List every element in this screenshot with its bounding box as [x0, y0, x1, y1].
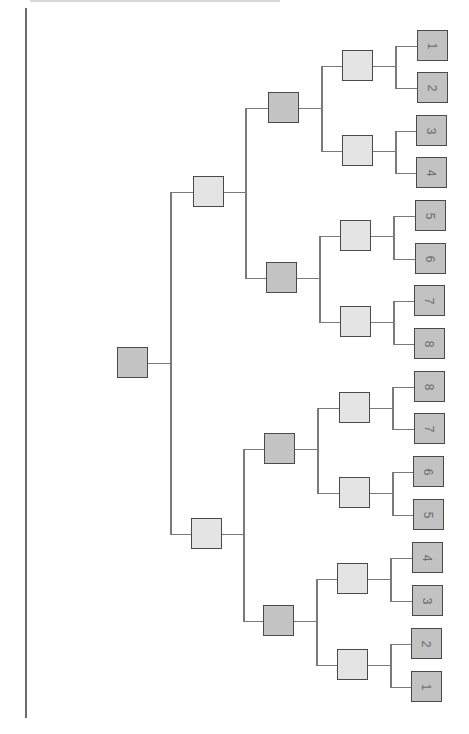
connector-line — [392, 472, 413, 474]
connector-line — [317, 408, 319, 493]
connector-line — [393, 259, 415, 261]
connector-line — [393, 301, 414, 303]
connector-line — [170, 192, 172, 534]
leaf-node: 4 — [412, 542, 443, 573]
connector-line — [170, 534, 191, 536]
leaf-node: 5 — [415, 200, 446, 231]
leaf-label: 4 — [421, 554, 435, 561]
leaf-label: 6 — [424, 255, 438, 262]
connector-line — [392, 472, 394, 515]
level2-node — [266, 262, 297, 293]
connector-line — [170, 192, 193, 194]
leaf-node: 2 — [411, 628, 442, 659]
level1-node — [193, 176, 224, 207]
connector-line — [390, 644, 392, 687]
connector-line — [295, 449, 317, 451]
leaf-node: 7 — [414, 285, 445, 316]
leaf-label: 8 — [423, 383, 437, 390]
connector-line — [321, 66, 323, 151]
connector-line — [245, 278, 266, 280]
connector-line — [393, 216, 395, 259]
level3-node — [340, 306, 371, 337]
level3-node — [340, 220, 371, 251]
connector-line — [224, 192, 245, 194]
leaf-node: 8 — [414, 371, 445, 402]
connector-line — [368, 579, 390, 581]
leaf-node: 1 — [411, 671, 442, 702]
connector-line — [371, 236, 393, 238]
connector-line — [393, 301, 395, 344]
connector-line — [243, 621, 263, 623]
connector-line — [371, 322, 393, 324]
connector-line — [395, 46, 397, 88]
leaf-label: 1 — [426, 42, 440, 49]
leaf-label: 2 — [426, 84, 440, 91]
connector-line — [321, 151, 342, 153]
leaf-node: 3 — [412, 585, 443, 616]
leaf-label: 3 — [421, 597, 435, 604]
leaf-label: 3 — [425, 127, 439, 134]
level3-node — [337, 563, 368, 594]
connector-line — [395, 131, 416, 133]
connector-line — [393, 344, 414, 346]
connector-line — [390, 558, 412, 560]
leaf-label: 6 — [422, 468, 436, 475]
level2-node — [268, 92, 299, 123]
connector-line — [393, 216, 415, 218]
level3-node — [342, 135, 373, 166]
connector-line — [316, 579, 337, 581]
connector-line — [392, 429, 414, 431]
level1-node — [191, 518, 222, 549]
connector-line — [245, 108, 268, 110]
connector-line — [368, 665, 390, 667]
level2-node — [264, 433, 295, 464]
leaf-node: 2 — [417, 72, 448, 103]
connector-line — [294, 621, 316, 623]
leaf-node: 7 — [414, 413, 445, 444]
level2-node — [263, 605, 294, 636]
connector-line — [317, 408, 339, 410]
leaf-label: 8 — [423, 340, 437, 347]
leaf-node: 1 — [417, 30, 448, 61]
connector-line — [316, 579, 318, 665]
connector-line — [390, 558, 392, 601]
page-margin-line — [25, 8, 27, 718]
connector-line — [390, 687, 411, 689]
connector-line — [243, 449, 264, 451]
connector-line — [297, 278, 319, 280]
connector-line — [373, 151, 395, 153]
connector-line — [392, 387, 394, 429]
connector-line — [319, 236, 321, 322]
root-node — [117, 347, 148, 378]
connector-line — [370, 408, 392, 410]
connector-line — [373, 66, 395, 68]
page-top-edge — [30, 0, 280, 2]
level3-node — [342, 50, 373, 81]
connector-line — [390, 644, 411, 646]
connector-line — [319, 236, 340, 238]
leaf-label: 1 — [420, 683, 434, 690]
connector-line — [222, 534, 243, 536]
connector-line — [299, 108, 321, 110]
connector-line — [317, 493, 339, 495]
leaf-node: 8 — [414, 328, 445, 359]
connector-line — [395, 88, 417, 90]
connector-line — [319, 322, 340, 324]
connector-line — [390, 601, 412, 603]
connector-line — [370, 493, 392, 495]
leaf-node: 5 — [413, 499, 444, 530]
connector-line — [243, 449, 245, 621]
leaf-label: 5 — [422, 511, 436, 518]
connector-line — [392, 387, 414, 389]
level3-node — [339, 477, 370, 508]
connector-line — [395, 46, 417, 48]
connector-line — [316, 665, 337, 667]
connector-line — [395, 131, 397, 173]
leaf-node: 4 — [416, 157, 447, 188]
connector-line — [395, 173, 416, 175]
level3-node — [337, 649, 368, 680]
connector-line — [321, 66, 342, 68]
leaf-node: 6 — [413, 456, 444, 487]
leaf-label: 4 — [425, 169, 439, 176]
level3-node — [339, 392, 370, 423]
